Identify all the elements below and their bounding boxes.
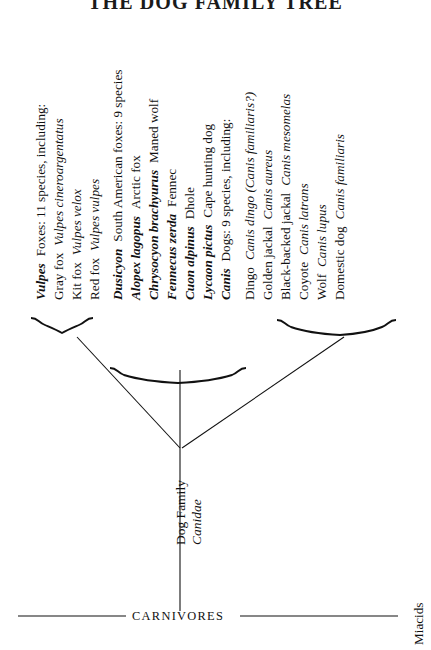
- root-label-scientific: Canidae: [189, 499, 204, 545]
- dog-family-tree-figure: THE DOG FAMILY TREE VulpesFoxes: 11 spec…: [0, 0, 431, 650]
- root-label-canidae: Canidae: [190, 499, 204, 545]
- tree-lines: [0, 0, 431, 650]
- brace-left: [31, 318, 93, 333]
- root-label-dog-family: Dog Family: [174, 480, 188, 545]
- outgroup-label-miacids: Miacids: [412, 603, 425, 646]
- baseline-label-carnivores: CARNIVORES: [132, 609, 224, 624]
- brace-right: [277, 320, 396, 335]
- branch-right: [182, 337, 344, 448]
- branch-left: [77, 337, 180, 448]
- brace-center: [110, 368, 246, 383]
- root-label-common: Dog Family: [173, 480, 188, 545]
